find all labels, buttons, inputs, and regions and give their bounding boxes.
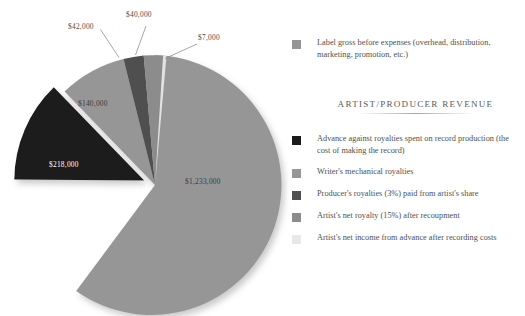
legend-section-heading: ARTIST/PRODUCER REVENUE xyxy=(313,99,518,114)
legend-label-artist-net-income: Artist's net income from advance after r… xyxy=(317,232,517,244)
pie-chart-svg xyxy=(0,0,300,316)
slice-value-42000: $42,000 xyxy=(68,22,94,31)
legend-swatch-icon-label-gross xyxy=(292,40,301,49)
legend-label-label-gross: Label gross before expenses (overhead, d… xyxy=(317,37,517,61)
legend-heading-text: ARTIST/PRODUCER REVENUE xyxy=(313,99,518,109)
legend-swatch-icon-advance-royalties xyxy=(292,136,301,145)
legend-group-label-gross: Label gross before expenses (overhead, d… xyxy=(292,37,525,70)
slice-value-1233000: $1,233,000 xyxy=(185,177,221,186)
legend-label-producer-royalties: Producer's royalties (3%) paid from arti… xyxy=(317,188,517,200)
legend-swatch-icon-writers-mechanical xyxy=(292,169,301,178)
legend-label-writers-mechanical: Writer's mechanical royalties xyxy=(317,166,517,178)
legend-swatch-icon-producer-royalties xyxy=(292,191,301,200)
legend-item-writers-mechanical[interactable]: Writer's mechanical royalties xyxy=(292,166,525,178)
leader-line-40000 xyxy=(136,26,147,55)
legend-label-advance-royalties: Advance against royalties spent on recor… xyxy=(317,133,517,157)
leader-line-42000 xyxy=(101,30,120,58)
legend-group-artist-producer: Advance against royalties spent on recor… xyxy=(292,133,525,254)
leader-line-7000 xyxy=(165,44,197,59)
pie-chart-area: $42,000 $40,000 $7,000 $140,000 $218,000… xyxy=(0,0,300,316)
legend-item-artist-net-royalty[interactable]: Artist's net royalty (15%) after recoupm… xyxy=(292,210,525,222)
slice-value-7000: $7,000 xyxy=(198,33,220,42)
legend-heading-divider xyxy=(357,113,475,114)
legend-item-artist-net-income[interactable]: Artist's net income from advance after r… xyxy=(292,232,525,244)
slice-value-140000: $140,000 xyxy=(78,99,108,108)
leader-lines xyxy=(101,26,198,59)
legend-swatch-icon-artist-net-income xyxy=(292,235,301,244)
chart-legend: Label gross before expenses (overhead, d… xyxy=(292,0,525,316)
slice-value-40000: $40,000 xyxy=(126,10,152,19)
legend-item-producer-royalties[interactable]: Producer's royalties (3%) paid from arti… xyxy=(292,188,525,200)
legend-item-label-gross[interactable]: Label gross before expenses (overhead, d… xyxy=(292,37,525,61)
legend-swatch-icon-artist-net-royalty xyxy=(292,213,301,222)
slice-value-218000: $218,000 xyxy=(49,160,79,169)
legend-item-advance-royalties[interactable]: Advance against royalties spent on recor… xyxy=(292,133,525,157)
legend-label-artist-net-royalty: Artist's net royalty (15%) after recoupm… xyxy=(317,210,517,222)
